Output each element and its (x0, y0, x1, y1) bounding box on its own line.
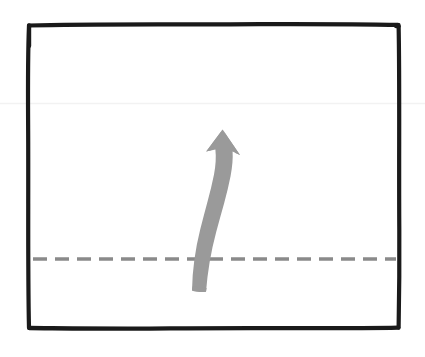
curved-up-arrow (192, 130, 240, 293)
diagram-canvas: Hand-drawn diagram: curved upward arrow … (0, 0, 425, 357)
figure-svg (0, 0, 425, 357)
